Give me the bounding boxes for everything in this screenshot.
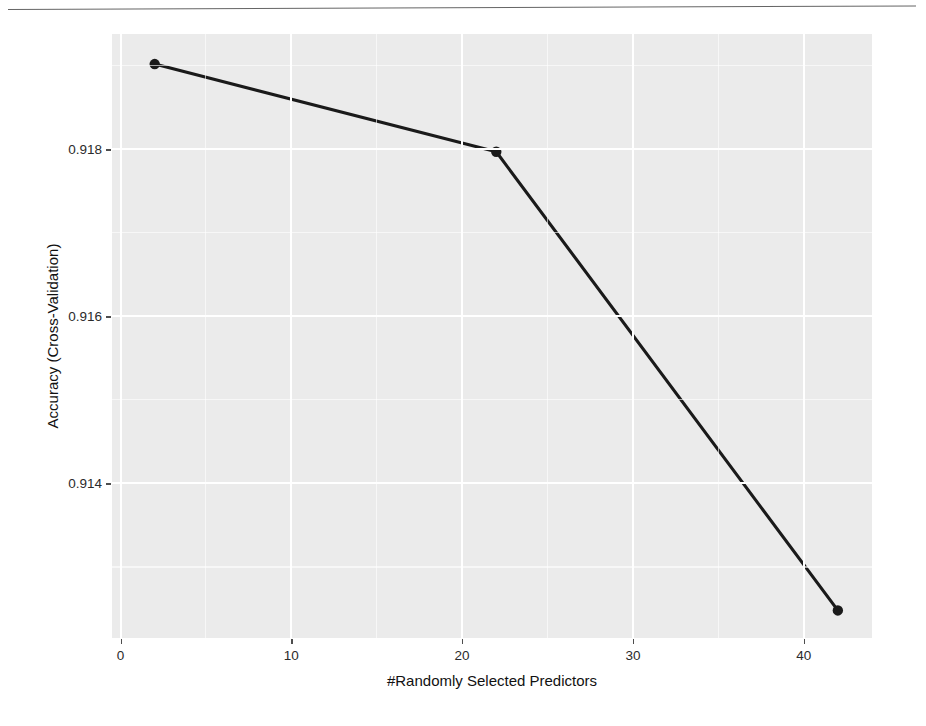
x-axis-tick-label: 0 <box>117 648 125 663</box>
y-axis-tick-mark <box>106 316 111 317</box>
x-axis-tick-mark <box>291 639 292 644</box>
gridline-minor-horizontal <box>112 566 872 567</box>
plot-panel: 2, 0.9190222, 0.9179742, 0.91248 <box>112 34 872 638</box>
x-axis-tick-mark <box>462 639 463 644</box>
gridline-minor-horizontal <box>112 65 872 66</box>
gridline-major-vertical <box>632 34 634 638</box>
gridline-minor-vertical <box>547 34 548 638</box>
x-axis-tick-mark <box>633 639 634 644</box>
gridline-minor-vertical <box>205 34 206 638</box>
y-axis-tick-mark <box>106 149 111 150</box>
gridline-major-horizontal <box>112 148 872 150</box>
y-axis-tick-label: 0.918 <box>68 142 102 157</box>
chart-figure: 2, 0.9190222, 0.9179742, 0.91248 #Random… <box>0 0 926 726</box>
gridline-major-horizontal <box>112 315 872 317</box>
data-point-marker: 42, 0.91248 <box>833 605 843 615</box>
x-axis-tick-label: 20 <box>455 648 470 663</box>
gridline-major-horizontal <box>112 482 872 484</box>
gridline-minor-vertical <box>376 34 377 638</box>
y-axis-tick-label: 0.916 <box>68 309 102 324</box>
y-axis-label: Accuracy (Cross-Validation) <box>44 244 61 429</box>
x-axis-tick-mark <box>121 639 122 644</box>
x-axis-tick-mark <box>804 639 805 644</box>
x-axis-tick-label: 40 <box>796 648 811 663</box>
x-axis-label: #Randomly Selected Predictors <box>387 672 597 689</box>
gridline-minor-vertical <box>718 34 719 638</box>
data-point-marker: 2, 0.91902 <box>149 59 159 69</box>
gridline-minor-horizontal <box>112 399 872 400</box>
series-line-chart: 2, 0.9190222, 0.9179742, 0.91248 <box>112 34 872 638</box>
gridline-minor-horizontal <box>112 232 872 233</box>
y-axis-tick-label: 0.914 <box>68 476 102 491</box>
y-axis-tick-mark <box>106 483 111 484</box>
gridline-major-vertical <box>290 34 292 638</box>
gridline-major-vertical <box>803 34 805 638</box>
series-line <box>155 64 838 610</box>
x-axis-tick-label: 10 <box>284 648 299 663</box>
gridline-major-vertical <box>461 34 463 638</box>
x-axis-tick-label: 30 <box>625 648 640 663</box>
gridline-major-vertical <box>120 34 122 638</box>
